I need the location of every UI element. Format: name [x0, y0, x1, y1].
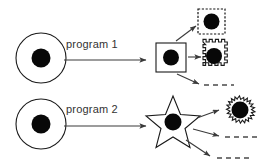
row-2-branch-arrow-down [186, 140, 210, 156]
row-2-output-irregular-blob [227, 96, 255, 123]
row-1-output-crenellated-square [203, 39, 227, 65]
row-1-branch-arrow-up [176, 26, 196, 41]
row-2-source-cell [16, 99, 66, 149]
row-1-branch-arrow-down [177, 74, 199, 84]
row-1-output-dashed-square [198, 9, 225, 34]
row-2-intermediate-star [146, 96, 200, 148]
row-1-intermediate-square [156, 43, 186, 72]
row-2-branch-arrow-up [197, 110, 219, 118]
program-1-label: program 1 [66, 38, 118, 50]
diagram-canvas: program 1 [0, 0, 271, 166]
row-1-source-cell [16, 33, 66, 83]
program-2-label: program 2 [66, 103, 118, 115]
row-2-branch-arrow-right [193, 129, 219, 136]
